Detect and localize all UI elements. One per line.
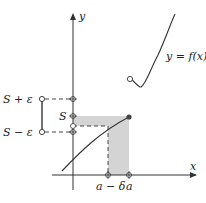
open-circle-icon [127, 76, 132, 81]
label-s-minus-epsilon: S − ε [3, 126, 33, 139]
label-s: S [59, 110, 67, 123]
y-axis-label: y [78, 10, 86, 23]
limit-diagram: x y S + ε S S − ε a − δ a [0, 0, 206, 203]
filled-dot-icon [126, 114, 131, 119]
tick-marker-icon [71, 124, 76, 129]
label-a: a [126, 180, 133, 193]
y-axis-arrow-icon [70, 13, 76, 20]
function-label: y = f(x) [165, 50, 206, 63]
diagram-canvas: x y S + ε S S − ε a − δ a [0, 0, 206, 203]
label-s-plus-epsilon: S + ε [3, 93, 33, 106]
x-axis-label: x [190, 160, 197, 173]
open-circle-icon [39, 96, 44, 101]
open-circle-icon [39, 129, 44, 134]
shaded-regions [73, 116, 129, 175]
label-a-minus-delta: a − δ [96, 180, 126, 193]
epsilon-interval [39, 96, 44, 134]
